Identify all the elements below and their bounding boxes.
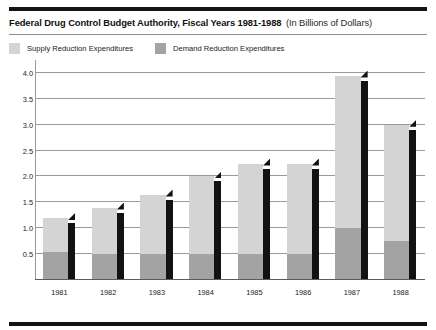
x-axis-tick-label: 1987 [328, 288, 377, 297]
legend-item-demand: Demand Reduction Expenditures [155, 42, 284, 54]
y-axis-labels: 0.51.01.52.02.53.03.54.0 [9, 60, 33, 302]
chart-figure: Federal Drug Control Budget Authority, F… [0, 7, 436, 330]
bar-slot [84, 60, 133, 280]
page-title: Federal Drug Control Budget Authority, F… [9, 17, 281, 28]
bar-slot [181, 60, 230, 280]
bar-segment-demand [238, 254, 263, 280]
bar-slot [328, 60, 377, 280]
bar-side-shadow [361, 81, 368, 280]
top-rule [9, 7, 427, 11]
bar-segment-supply [384, 125, 409, 241]
legend-item-supply: Supply Reduction Expenditures [9, 42, 133, 54]
x-axis-labels: 19811982198319841985198619871988 [35, 282, 425, 302]
chart-legend: Supply Reduction Expenditures Demand Red… [9, 42, 427, 54]
y-axis-tick-label: 1.5 [9, 198, 33, 207]
x-axis-tick-label: 1981 [35, 288, 84, 297]
bar-1981 [43, 218, 68, 280]
legend-swatch-demand-icon [155, 43, 166, 54]
bar-segment-supply [335, 76, 360, 229]
x-axis-tick-label: 1985 [230, 288, 279, 297]
y-axis-tick-label: 3.5 [9, 94, 33, 103]
bar-segment-demand [92, 254, 117, 280]
bar-segment-demand [335, 228, 360, 280]
page-subtitle: (In Billions of Dollars) [286, 17, 372, 28]
bar-segment-supply [92, 208, 117, 255]
bar-slot [35, 60, 84, 280]
bar-side-shadow [312, 169, 319, 280]
bar-1988 [384, 125, 409, 280]
bar-side-shadow [214, 181, 221, 280]
bar-side-shadow [166, 200, 173, 280]
bar-1987 [335, 76, 360, 280]
bar-slot [133, 60, 182, 280]
grid-area [35, 60, 425, 280]
bar-top-bevel [312, 159, 319, 166]
x-axis-tick-label: 1982 [84, 288, 133, 297]
y-axis-tick-label: 3.0 [9, 120, 33, 129]
bar-1983 [140, 195, 165, 280]
bar-1982 [92, 208, 117, 280]
bar-top-bevel [409, 120, 416, 127]
bar-slot [279, 60, 328, 280]
bar-top-bevel [361, 71, 368, 78]
bar-segment-demand [140, 254, 165, 280]
bar-segment-supply [43, 218, 68, 252]
bar-top-bevel [68, 213, 75, 220]
bar-segment-supply [287, 164, 312, 255]
legend-label-supply: Supply Reduction Expenditures [27, 44, 133, 53]
bar-segment-supply [140, 195, 165, 255]
bar-top-bevel [166, 190, 173, 197]
bar-top-bevel [263, 159, 270, 166]
y-axis-tick-label: 2.5 [9, 146, 33, 155]
bar-side-shadow [263, 169, 270, 280]
bar-series [35, 60, 425, 280]
bar-1986 [287, 164, 312, 280]
x-axis-tick-label: 1984 [181, 288, 230, 297]
x-axis-tick-label: 1988 [376, 288, 425, 297]
plot-area: 0.51.01.52.02.53.03.54.0 198119821983198… [9, 60, 427, 302]
y-axis-tick-label: 4.0 [9, 68, 33, 77]
y-axis-tick-label: 1.0 [9, 224, 33, 233]
bar-slot [376, 60, 425, 280]
bar-slot [230, 60, 279, 280]
bar-1985 [238, 164, 263, 280]
bar-side-shadow [117, 213, 124, 280]
y-axis-tick-label: 2.0 [9, 172, 33, 181]
bar-segment-demand [189, 254, 214, 280]
y-axis-tick-label: 0.5 [9, 250, 33, 259]
chart-title: Federal Drug Control Budget Authority, F… [9, 15, 427, 29]
x-axis-line [35, 279, 425, 280]
bar-1984 [189, 176, 214, 280]
title-divider [9, 34, 427, 35]
bar-segment-demand [287, 254, 312, 280]
bar-segment-supply [189, 176, 214, 254]
bar-top-bevel [117, 203, 124, 210]
legend-label-demand: Demand Reduction Expenditures [173, 44, 284, 53]
x-axis-tick-label: 1986 [279, 288, 328, 297]
bar-segment-demand [43, 252, 68, 280]
bar-segment-demand [384, 241, 409, 280]
bar-side-shadow [409, 130, 416, 280]
legend-swatch-supply-icon [9, 43, 20, 54]
bar-segment-supply [238, 164, 263, 255]
bar-top-bevel [214, 171, 221, 178]
bar-side-shadow [68, 223, 75, 280]
x-axis-tick-label: 1983 [133, 288, 182, 297]
bottom-rule [9, 322, 427, 326]
